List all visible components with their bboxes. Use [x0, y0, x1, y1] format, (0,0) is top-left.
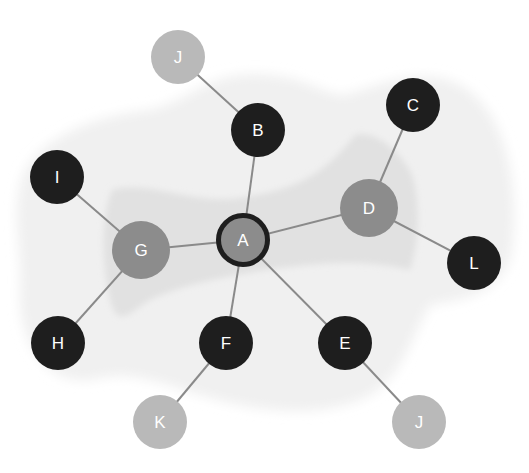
node-label: A [237, 231, 249, 250]
node-c: C [386, 78, 440, 132]
node-label: J [174, 48, 183, 67]
node-j1: J [151, 30, 205, 84]
node-g: G [112, 221, 170, 279]
node-label: L [469, 254, 478, 273]
node-k: K [133, 395, 187, 449]
node-label: G [134, 241, 147, 260]
node-e: E [318, 316, 372, 370]
node-j2: J [392, 395, 446, 449]
node-label: C [407, 96, 419, 115]
node-f: F [199, 316, 253, 370]
node-h: H [31, 316, 85, 370]
network-diagram: ABCDEFGHIJJKL [0, 0, 529, 473]
node-label: D [363, 199, 375, 218]
node-label: I [55, 168, 60, 187]
node-i: I [30, 150, 84, 204]
node-label: J [415, 413, 424, 432]
node-label: F [221, 334, 231, 353]
node-a: A [219, 216, 268, 265]
node-d: D [340, 179, 398, 237]
node-label: B [252, 121, 263, 140]
node-l: L [447, 236, 501, 290]
node-label: E [339, 334, 350, 353]
node-label: H [52, 334, 64, 353]
node-label: K [154, 413, 166, 432]
node-b: B [231, 103, 285, 157]
